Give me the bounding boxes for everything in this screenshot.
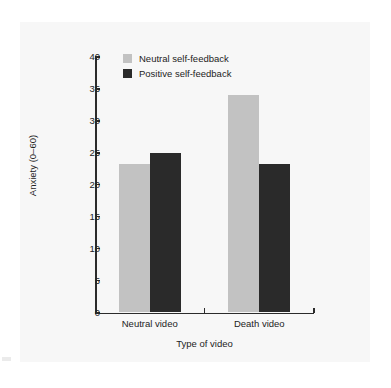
bar [119,164,150,313]
y-axis-tick-label: 25 [66,148,100,158]
x-axis-tick-label: Death video [199,318,319,329]
y-axis-tick-label: 5 [66,276,100,286]
legend-item-label: Positive self-feedback [139,69,231,79]
y-axis-tick-label: 40 [66,52,100,62]
x-axis-title: Type of video [95,338,314,349]
legend-item: Positive self-feedback [123,67,231,80]
y-axis-tick-label: 20 [66,180,100,190]
bar [228,95,259,312]
y-axis-tick-label: 15 [66,212,100,222]
legend-item-label: Neutral self-feedback [139,54,229,64]
y-axis-tick-label: 35 [66,84,100,94]
chart-legend: Neutral self-feedbackPositive self-feedb… [123,52,231,82]
bar [259,164,290,312]
legend-swatch-icon [123,69,132,78]
legend-swatch-icon [123,54,132,63]
y-axis-title: Anxiety (0–60) [27,96,38,236]
y-axis-tick-label: 0 [66,308,100,318]
x-axis-line [95,313,314,315]
x-axis-tick-label: Neutral video [90,318,210,329]
x-axis-tick [204,308,205,313]
figure-root: 0510152025303540 Neutral videoDeath vide… [0,0,391,388]
bar-chart-plot-area: 0510152025303540 Neutral videoDeath vide… [0,0,391,388]
y-axis-tick-label: 30 [66,116,100,126]
x-axis-tick [313,308,314,313]
y-axis-tick-label: 10 [66,244,100,254]
bar [150,153,181,312]
legend-item: Neutral self-feedback [123,52,231,65]
